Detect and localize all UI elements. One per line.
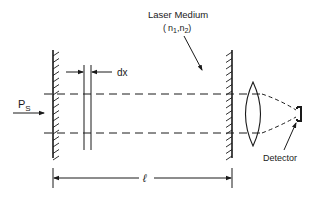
detector-label: Detector xyxy=(263,153,297,163)
mirror-hatch xyxy=(226,111,232,115)
mirror-hatch xyxy=(53,111,59,115)
ps-label: PS xyxy=(18,98,31,113)
mirror-hatch xyxy=(226,104,232,108)
mirror-hatch xyxy=(226,150,232,154)
mirror-hatch xyxy=(53,52,59,56)
detector: Detector xyxy=(263,107,301,163)
mirror-hatch xyxy=(226,78,232,82)
mirror-hatch xyxy=(226,124,232,128)
mirror-hatch xyxy=(53,156,59,160)
mirror-hatch xyxy=(53,143,59,147)
dx-label: dx xyxy=(117,67,128,78)
mirror-hatch xyxy=(53,98,59,102)
mirror-hatch xyxy=(226,65,232,69)
medium-params: (n1,n2) xyxy=(163,23,191,34)
mirror-hatch xyxy=(226,85,232,89)
beam-path xyxy=(44,94,296,133)
medium-label: Laser Medium (n1,n2) xyxy=(148,9,208,70)
mirror-hatch xyxy=(53,59,59,63)
mirror-hatch xyxy=(226,98,232,102)
source-power: PS xyxy=(13,98,44,113)
mirror-hatch xyxy=(53,150,59,154)
mirror-hatch xyxy=(226,137,232,141)
mirror-hatch xyxy=(226,52,232,56)
slab-dx: dx xyxy=(66,65,128,150)
lens xyxy=(246,82,261,146)
mirror-hatch xyxy=(226,72,232,76)
detector-pointer-arrow xyxy=(284,123,296,150)
mirror-hatch xyxy=(53,78,59,82)
mirror-hatch xyxy=(226,156,232,160)
mirror-hatch xyxy=(53,65,59,69)
mirror-hatch xyxy=(226,59,232,63)
mirror-hatch xyxy=(53,104,59,108)
mirror-hatch xyxy=(226,143,232,147)
cavity-length-dimension: ℓ xyxy=(53,168,232,188)
input-mirror xyxy=(53,50,59,160)
mirror-hatch xyxy=(53,124,59,128)
mirror-hatch xyxy=(226,117,232,121)
medium-pointer-arrow xyxy=(184,36,202,70)
output-mirror xyxy=(226,50,232,160)
mirror-hatch xyxy=(53,72,59,76)
length-label: ℓ xyxy=(142,172,147,184)
mirror-hatch xyxy=(53,85,59,89)
laser-cavity-diagram: dx Laser Medium (n1,n2) PS Detector ℓ xyxy=(0,0,317,198)
medium-title: Laser Medium xyxy=(148,9,208,20)
mirror-hatch xyxy=(53,117,59,121)
mirror-hatch xyxy=(53,137,59,141)
